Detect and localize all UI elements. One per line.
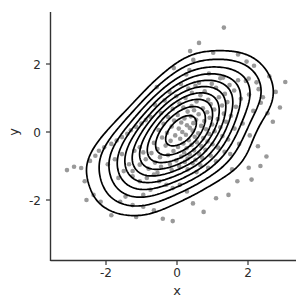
data-point xyxy=(120,152,125,157)
data-point xyxy=(178,137,183,142)
data-point xyxy=(65,168,70,173)
data-point xyxy=(149,151,154,156)
data-point xyxy=(113,157,118,162)
data-point xyxy=(252,63,257,68)
data-point xyxy=(232,88,237,93)
density-contours-layer xyxy=(86,51,273,216)
data-point xyxy=(168,139,173,144)
x-tick-label: 2 xyxy=(244,266,252,280)
data-point xyxy=(218,76,223,81)
data-point xyxy=(171,149,176,154)
density-contour-plot: -202 -202 x y xyxy=(0,0,305,304)
data-point xyxy=(170,219,175,224)
data-point xyxy=(191,201,196,206)
data-point xyxy=(176,126,181,131)
data-point xyxy=(109,213,114,218)
data-point xyxy=(249,177,254,182)
x-tick-label: 0 xyxy=(173,266,181,280)
y-tick-label: 0 xyxy=(33,126,41,140)
data-point xyxy=(109,142,114,147)
data-point xyxy=(246,165,251,170)
data-point xyxy=(278,105,283,110)
data-point xyxy=(141,150,146,155)
data-point xyxy=(258,164,263,169)
data-point xyxy=(236,78,241,83)
data-point xyxy=(72,164,77,169)
data-point xyxy=(271,120,276,125)
data-point xyxy=(214,196,219,201)
data-point xyxy=(97,148,102,153)
data-point xyxy=(220,103,225,108)
data-point xyxy=(256,144,261,149)
data-point xyxy=(254,80,259,85)
data-point xyxy=(79,166,84,171)
y-axis-ticks: -202 xyxy=(29,58,50,208)
data-point xyxy=(283,80,288,85)
data-point xyxy=(201,210,206,215)
data-point xyxy=(264,154,269,159)
data-point xyxy=(191,58,196,63)
x-axis-ticks: -202 xyxy=(100,261,252,280)
x-axis-title: x xyxy=(173,283,181,298)
data-point xyxy=(192,108,197,113)
y-tick-label: -2 xyxy=(29,194,41,208)
plot-canvas: -202 -202 x y xyxy=(0,0,305,304)
data-point xyxy=(185,109,190,114)
data-point xyxy=(197,41,202,46)
y-tick-label: 2 xyxy=(33,58,41,72)
data-point xyxy=(161,216,166,221)
data-point xyxy=(127,162,132,167)
data-point xyxy=(160,135,165,140)
data-point xyxy=(196,112,201,117)
y-axis-title: y xyxy=(6,128,21,136)
data-point xyxy=(222,25,227,30)
data-point xyxy=(130,169,135,174)
data-point xyxy=(247,133,252,138)
data-point xyxy=(179,120,184,125)
data-point xyxy=(217,95,222,100)
data-point xyxy=(244,59,249,64)
data-point xyxy=(184,132,189,137)
data-point xyxy=(235,179,240,184)
data-point xyxy=(234,105,239,110)
data-point xyxy=(209,81,214,86)
data-point xyxy=(121,169,126,174)
data-point xyxy=(226,193,231,198)
x-tick-label: -2 xyxy=(100,266,112,280)
data-point xyxy=(173,133,178,138)
data-point xyxy=(191,121,196,126)
data-point xyxy=(84,198,89,203)
data-point xyxy=(143,157,148,162)
data-point xyxy=(93,154,98,159)
data-point xyxy=(158,155,163,160)
data-point xyxy=(82,179,87,184)
data-point xyxy=(188,49,193,54)
